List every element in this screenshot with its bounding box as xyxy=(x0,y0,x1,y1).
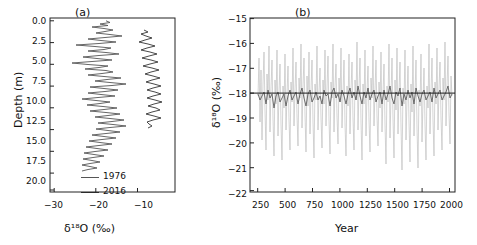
figure-container: (a) Depth (m) δ¹⁸O (‰) 0.0 2.5 5.0 7.5 1… xyxy=(0,0,477,245)
panel-b: (b) δ¹⁸O (‰) Year −15 −16 −17 −18 −19 −2… xyxy=(200,0,477,245)
panel-a: (a) Depth (m) δ¹⁸O (‰) 0.0 2.5 5.0 7.5 1… xyxy=(0,0,200,245)
panel-b-plot xyxy=(200,0,477,245)
panel-a-plot xyxy=(0,0,200,245)
